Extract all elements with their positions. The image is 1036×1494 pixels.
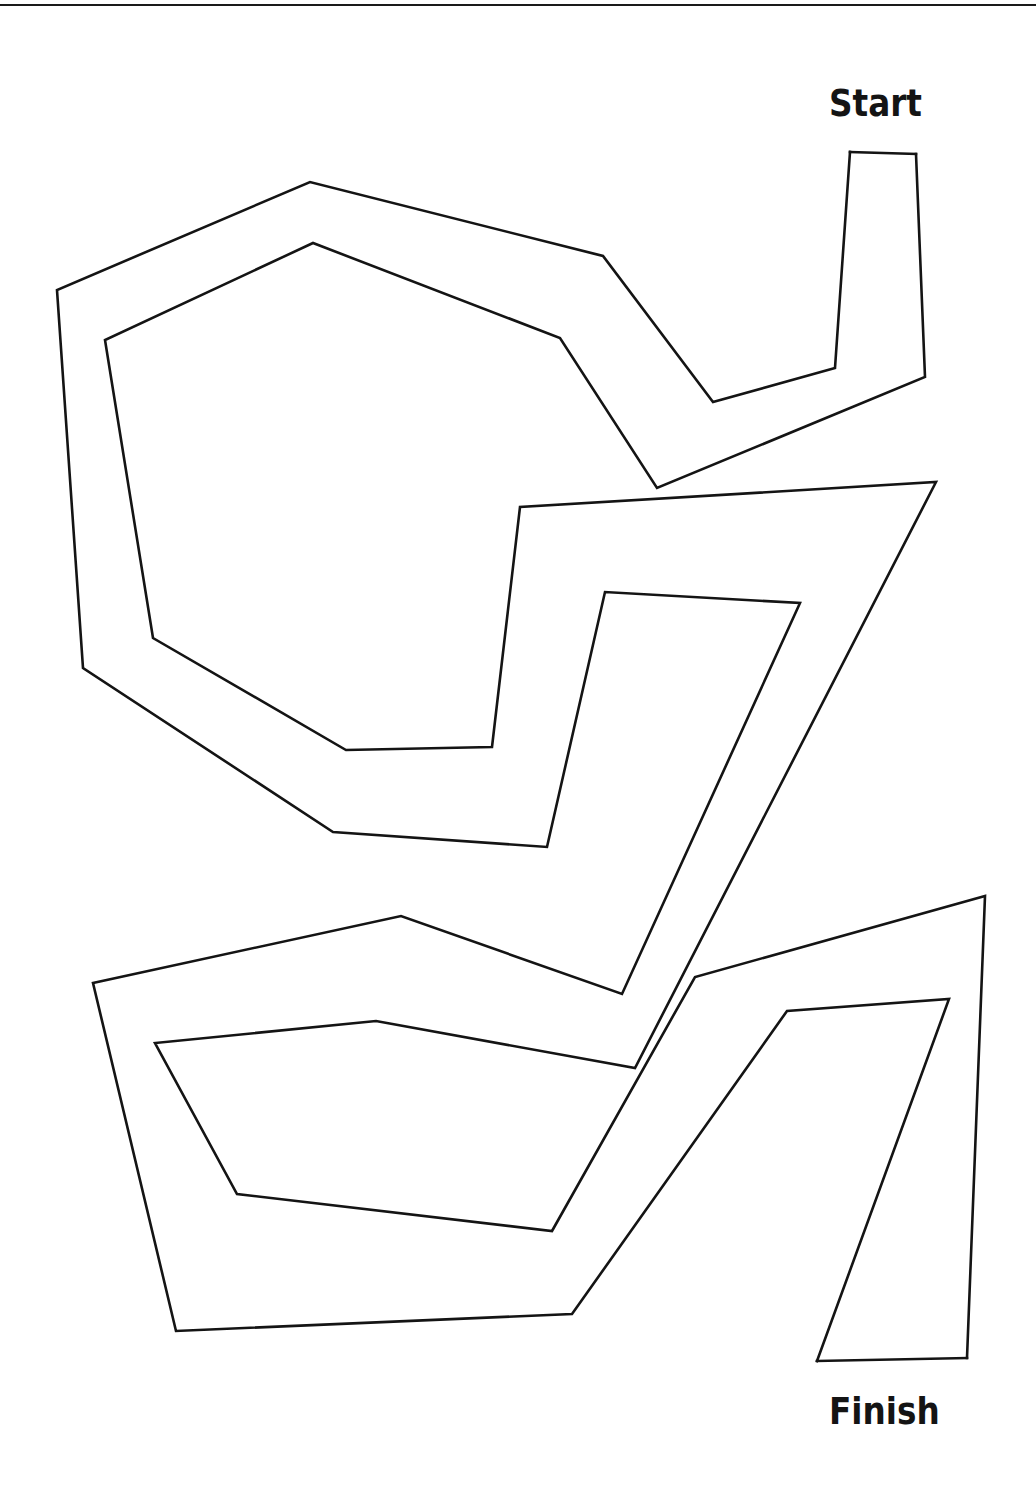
start-entrance-cap: [850, 152, 916, 154]
finish-label: Finish: [829, 1392, 940, 1430]
maze-diagram: [0, 0, 1036, 1494]
start-label: Start: [829, 84, 922, 122]
maze-wall-b: [57, 152, 949, 1361]
maze-wall-a: [105, 154, 985, 1358]
finish-exit-cap: [817, 1358, 967, 1361]
